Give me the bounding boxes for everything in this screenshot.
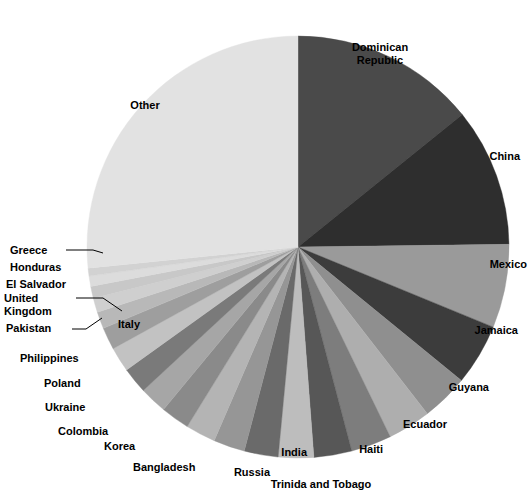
pie-label-honduras: Honduras bbox=[10, 261, 80, 274]
pie-label-haiti: Haiti bbox=[337, 443, 383, 456]
pie-label-pakistan: Pakistan bbox=[6, 322, 72, 335]
pie-label-other: Other bbox=[110, 99, 180, 112]
pie-label-korea: Korea bbox=[104, 440, 168, 453]
pie-label-russia: Russia bbox=[216, 466, 270, 479]
pie-label-guyana: Guyana bbox=[419, 381, 489, 394]
pie-chart-figure: DominicanRepublic China Mexico Jamaica G… bbox=[0, 0, 531, 498]
pie-label-jamaica: Jamaica bbox=[448, 324, 518, 337]
pie-label-dominican-republic: DominicanRepublic bbox=[336, 41, 424, 66]
pie-label-bangladesh: Bangladesh bbox=[133, 461, 215, 474]
pie-label-italy: Italy bbox=[92, 318, 140, 331]
pie-label-mexico: Mexico bbox=[465, 258, 527, 271]
pie-label-poland: Poland bbox=[44, 377, 116, 390]
pie-label-united-kingdom: UnitedKingdom bbox=[4, 292, 76, 317]
pie-label-china: China bbox=[460, 150, 520, 163]
pie-label-ecuador: Ecuador bbox=[373, 418, 447, 431]
pie-label-greece: Greece bbox=[10, 244, 66, 257]
pie-label-trinidad-and-tobago: Trinida and Tobago bbox=[259, 478, 383, 491]
pie-label-colombia: Colombia bbox=[58, 425, 142, 438]
pie-label-philippines: Philippines bbox=[20, 352, 108, 365]
pie-label-ukraine: Ukraine bbox=[45, 401, 127, 414]
pie-label-india: India bbox=[263, 446, 307, 459]
pie-slice-other bbox=[87, 36, 298, 268]
pie-chart-svg bbox=[0, 0, 531, 498]
pie-label-el-salvador: El Salvador bbox=[6, 278, 80, 291]
